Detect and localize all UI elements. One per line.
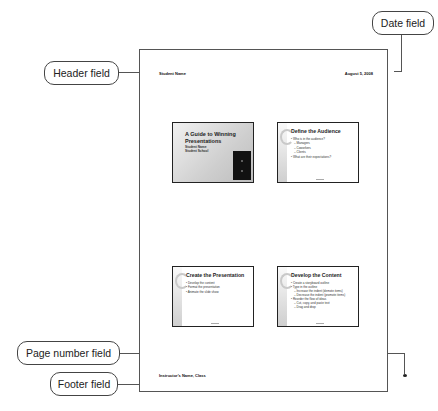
slide-thumbnail-3: Create the Presentation • Develop the co…	[172, 266, 254, 327]
slide-title: Create the Presentation	[186, 272, 244, 278]
page-number-marker	[403, 374, 407, 377]
page-number-callout-line-v	[404, 353, 405, 374]
slide-thumbnail-4: Develop the Content • Create a storyboar…	[277, 266, 359, 327]
slide-number	[316, 179, 324, 180]
handout-page: Student Name August 5, 2008 A Guide to W…	[139, 49, 388, 392]
slide-subtitle: Student Name Student School	[185, 145, 208, 153]
date-text: August 5, 2008	[345, 71, 373, 76]
slide-title: Develop the Content	[291, 272, 341, 278]
slide-thumbnail-1: A Guide to Winning Presentations Student…	[172, 122, 254, 183]
date-callout-line-v	[401, 35, 402, 71]
footer-field-callout: Footer field	[50, 372, 118, 396]
slide-number	[211, 323, 219, 324]
footer-text: Instructor's Name, Class	[159, 373, 206, 378]
slide-title: A Guide to Winning Presentations	[185, 131, 245, 144]
slide-number	[316, 323, 324, 324]
slide-photo	[233, 151, 251, 180]
slide-bullets: • Who is in the audience? – Managers – C…	[291, 137, 331, 159]
header-field-callout: Header field	[44, 61, 119, 85]
slide-bullets: • Develop the content • Format the prese…	[186, 281, 220, 294]
date-field-callout: Date field	[372, 11, 434, 35]
header-text: Student Name	[159, 71, 186, 76]
date-callout-line-h	[394, 71, 402, 72]
slide-bullets: • Create a storyboard outline • Type in …	[291, 281, 345, 309]
page-number-field-callout: Page number field	[17, 341, 120, 365]
slide-thumbnail-2: Define the Audience • Who is in the audi…	[277, 122, 359, 183]
slide-title: Define the Audience	[291, 128, 341, 134]
